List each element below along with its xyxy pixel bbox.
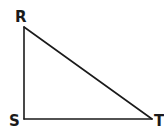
side-rt (24, 27, 152, 119)
vertex-label-r: R (15, 8, 27, 26)
vertex-label-s: S (9, 112, 20, 130)
triangle-diagram: R S T (0, 0, 164, 130)
vertex-label-t: T (154, 112, 164, 130)
